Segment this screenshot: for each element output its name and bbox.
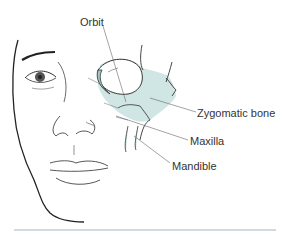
lower-lip	[56, 178, 100, 184]
label-orbit: Orbit	[80, 17, 104, 28]
label-zygomatic-bone: Zygomatic bone	[197, 108, 275, 119]
nose-right	[76, 120, 95, 134]
label-mandible: Mandible	[172, 161, 217, 172]
label-maxilla: Maxilla	[190, 136, 224, 147]
face-outline	[13, 40, 84, 222]
aux-line-3	[116, 117, 128, 120]
mandible-ramus	[125, 126, 138, 152]
eyebrow	[22, 52, 55, 60]
frontal-process	[141, 45, 143, 70]
nose-left	[53, 116, 68, 136]
cheek-line	[58, 62, 66, 102]
under-eye-line	[32, 87, 54, 89]
pupil	[38, 75, 42, 79]
mandible-leader	[134, 136, 170, 163]
diagram: Orbit Zygomatic bone Maxilla Mandible	[0, 0, 283, 234]
upper-lip	[50, 161, 108, 166]
lower-bone-edge	[140, 120, 150, 140]
lip-line	[50, 168, 108, 171]
